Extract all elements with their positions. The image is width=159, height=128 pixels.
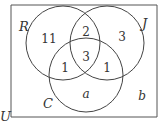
region-r-only: 11 bbox=[41, 32, 56, 46]
region-j-only: 3 bbox=[118, 30, 126, 44]
region-c-only: a bbox=[82, 87, 89, 101]
universe-label: U bbox=[0, 109, 12, 124]
set-c-label: C bbox=[43, 96, 53, 111]
set-j-label: J bbox=[139, 16, 148, 31]
region-r-and-c-only: 1 bbox=[61, 61, 69, 75]
region-j-and-c-only: 1 bbox=[103, 61, 111, 75]
region-r-j-c: 3 bbox=[82, 50, 90, 64]
region-r-and-j-only: 2 bbox=[82, 25, 90, 39]
venn-diagram: R J C U 11 2 3 3 1 1 a b bbox=[0, 0, 159, 128]
set-r-label: R bbox=[18, 19, 29, 34]
region-outside: b bbox=[138, 89, 146, 103]
